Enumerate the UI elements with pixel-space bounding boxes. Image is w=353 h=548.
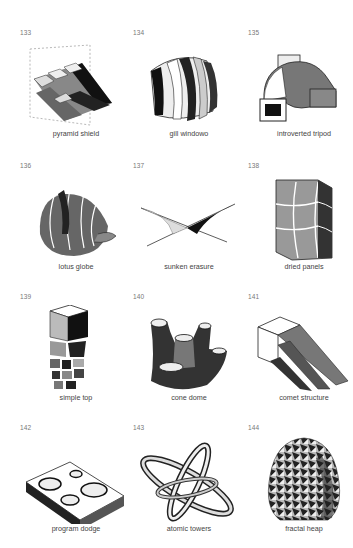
gill-windowo-illustration — [137, 41, 241, 129]
item-caption: fractal heap — [248, 524, 353, 533]
catalog-item-141: 141 comet structure — [248, 293, 353, 425]
sunken-erasure-illustration — [137, 174, 241, 262]
item-number: 144 — [248, 424, 259, 431]
item-caption: dried panels — [248, 262, 353, 271]
item-caption: simple top — [20, 393, 132, 402]
catalog-item-138: 138 dried panels — [248, 162, 353, 294]
item-number: 143 — [133, 424, 144, 431]
atomic-towers-illustration — [137, 436, 241, 524]
pyramid-shield-illustration — [24, 41, 128, 129]
item-number: 136 — [20, 162, 31, 169]
item-number: 133 — [20, 29, 31, 36]
item-number: 134 — [133, 29, 144, 36]
item-caption: sunken erasure — [133, 262, 245, 271]
catalog-item-134: 134 gill windowo — [133, 29, 245, 161]
introverted-tripod-illustration — [252, 41, 353, 129]
catalog-item-142: 142 program dodge — [20, 424, 132, 548]
item-number: 138 — [248, 162, 259, 169]
item-number: 139 — [20, 293, 31, 300]
cone-dome-illustration — [137, 305, 241, 393]
item-caption: pyramid shield — [20, 129, 132, 138]
item-caption: program dodge — [20, 524, 132, 533]
catalog-item-136: 136 lotus globe — [20, 162, 132, 294]
fractal-heap-illustration — [252, 436, 353, 524]
item-number: 135 — [248, 29, 259, 36]
item-number: 142 — [20, 424, 31, 431]
item-number: 140 — [133, 293, 144, 300]
comet-structure-illustration — [252, 305, 353, 393]
item-number: 141 — [248, 293, 259, 300]
simple-top-illustration — [24, 305, 128, 393]
item-caption: introverted tripod — [248, 129, 353, 138]
item-number: 137 — [133, 162, 144, 169]
catalog-item-133: 133 pyramid shield — [20, 29, 132, 161]
catalog-item-140: 140 cone dome — [133, 293, 245, 425]
lotus-globe-illustration — [24, 174, 128, 262]
program-dodge-illustration — [24, 436, 128, 524]
item-caption: atomic towers — [133, 524, 245, 533]
dried-panels-illustration — [252, 174, 353, 262]
item-caption: lotus globe — [20, 262, 132, 271]
item-caption: comet structure — [248, 393, 353, 402]
catalog-item-137: 137 sunken erasure — [133, 162, 245, 294]
catalog-item-135: 135 introverted tripod — [248, 29, 353, 161]
item-caption: cone dome — [133, 393, 245, 402]
catalog-item-139: 139 simple top — [20, 293, 132, 425]
catalog-item-144: 144 fractal heap — [248, 424, 353, 548]
catalog-item-143: 143 atomic towers — [133, 424, 245, 548]
item-caption: gill windowo — [133, 129, 245, 138]
